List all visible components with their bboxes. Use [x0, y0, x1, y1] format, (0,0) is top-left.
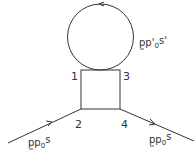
feynman-diagram: 1 2 3 4 pp'0s' pp0s pp0s	[0, 0, 196, 153]
svg-text:pp0s: pp0s	[149, 131, 171, 147]
box-square	[81, 70, 120, 109]
vertex-label-1: 1	[71, 70, 78, 83]
outgoing-momentum-label: pp0s	[149, 131, 171, 147]
loop-circle	[68, 4, 134, 70]
vertex-label-4: 4	[121, 118, 128, 131]
incoming-momentum-label: pp0s	[28, 134, 50, 150]
svg-text:pp'0s': pp'0s'	[139, 35, 167, 50]
vertex-label-2: 2	[75, 118, 82, 131]
loop-momentum-label: pp'0s'	[139, 35, 167, 50]
vertex-label-3: 3	[123, 70, 130, 83]
svg-text:pp0s: pp0s	[28, 134, 50, 150]
